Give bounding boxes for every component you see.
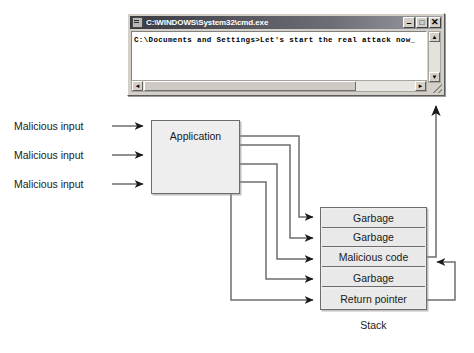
scroll-thumb[interactable] — [144, 81, 356, 91]
malicious-code-to-cmd-arrow — [427, 106, 436, 257]
scroll-right-icon[interactable]: ► — [415, 81, 426, 91]
stack-row: Garbage — [322, 209, 425, 228]
return-pointer-loop-arrow — [427, 262, 455, 300]
app-to-stack-arrow-1 — [240, 145, 313, 238]
cmd-horizontal-scrollbar[interactable]: ◄ ► — [131, 80, 427, 92]
maximize-button[interactable]: □ — [416, 17, 428, 28]
app-to-stack-arrow-2 — [240, 164, 313, 259]
stack-caption: Stack — [320, 319, 427, 331]
cmd-console-text: C:\Documents and Settings>Let's start th… — [132, 32, 426, 44]
close-icon: ✕ — [430, 18, 440, 27]
application-label: Application — [152, 130, 239, 142]
stack-box: Garbage Garbage Malicious code Garbage R… — [320, 207, 427, 310]
maximize-icon: □ — [417, 18, 427, 27]
malicious-input-label-2: Malicious input — [14, 178, 110, 190]
malicious-input-label-0: Malicious input — [14, 120, 110, 132]
application-box: Application — [151, 120, 240, 194]
resize-grip-icon[interactable] — [430, 81, 442, 93]
scroll-left-icon[interactable]: ◄ — [132, 81, 143, 91]
close-button[interactable]: ✕ — [429, 17, 441, 28]
cmd-vertical-scrollbar[interactable]: ▲ ▼ — [428, 31, 441, 83]
scroll-up-icon[interactable]: ▲ — [429, 32, 440, 42]
malicious-input-label-1: Malicious input — [14, 149, 110, 161]
cmd-window[interactable]: C:\WINDOWS\System32\cmd.exe – □ ✕ C:\Doc… — [127, 13, 445, 96]
diagram-canvas: C:\WINDOWS\System32\cmd.exe – □ ✕ C:\Doc… — [0, 0, 474, 353]
app-to-stack-arrow-4 — [231, 194, 313, 300]
cmd-titlebar[interactable]: C:\WINDOWS\System32\cmd.exe – □ ✕ — [130, 16, 442, 29]
app-to-stack-arrow-3 — [240, 182, 313, 279]
app-to-stack-arrow-0 — [240, 136, 313, 217]
stack-row: Return pointer — [322, 289, 425, 308]
cmd-console-area[interactable]: C:\Documents and Settings>Let's start th… — [131, 31, 427, 83]
cmd-title-text: C:\WINDOWS\System32\cmd.exe — [146, 18, 402, 27]
minimize-button[interactable]: – — [403, 17, 415, 28]
stack-row: Malicious code — [322, 248, 425, 267]
stack-row: Garbage — [322, 229, 425, 248]
cmd-window-icon — [132, 17, 143, 28]
minimize-icon: – — [404, 19, 414, 28]
stack-row: Garbage — [322, 269, 425, 288]
